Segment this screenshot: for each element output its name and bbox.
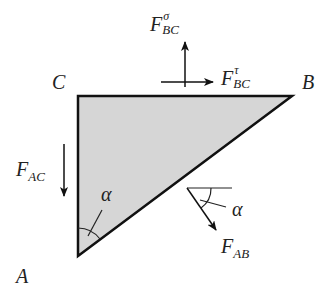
triangle-element [78,96,292,256]
angle-arc-ab [201,188,211,208]
label-sub: BC [233,77,250,90]
label-base: F [221,67,233,89]
label-f-bc-tau: FτBC [221,68,250,90]
label-f-ac: FAC [16,159,45,179]
label-f-ab: FAB [221,236,249,256]
label-supsub: σBC [162,14,179,36]
label-sub: AC [28,169,45,184]
label-base: F [221,235,233,257]
label-base: F [150,13,162,35]
label-sup: σ [163,10,169,22]
force-arrow-ab [187,188,216,230]
free-body-diagram [0,0,329,292]
label-sub: AB [233,246,249,261]
label-base: F [16,158,28,180]
vertex-label-b: B [302,72,314,92]
angle-label-ab: α [232,199,243,219]
vertex-label-c: C [52,72,65,92]
vertex-label-a: A [16,266,28,286]
label-supsub: τBC [233,68,250,90]
angle-label-a: α [101,184,112,204]
label-sub: BC [162,23,179,36]
label-sup: τ [234,64,238,76]
label-f-bc-sigma: FσBC [150,14,179,36]
